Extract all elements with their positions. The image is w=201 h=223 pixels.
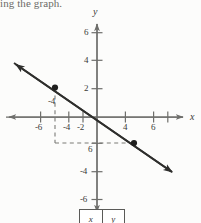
x-tick-label-4: 4: [123, 122, 127, 132]
x-tick-label-6: 6: [151, 122, 155, 132]
y-axis-label: y: [93, 6, 97, 17]
graph-svg: [0, 0, 201, 223]
x-axis: [6, 112, 183, 123]
answer-table[interactable]: x y: [79, 209, 125, 223]
plot-point-b[interactable]: [131, 140, 137, 146]
x-tick-label--4: -4: [63, 122, 70, 132]
table-header-x: x: [80, 210, 102, 223]
line-segment-up-left: [16, 65, 172, 173]
x-tick-label--6: -6: [35, 122, 42, 132]
coordinate-graph-figure: y x -6 -4 -2 4 6 6 4 2 6 -4 -6 -4: [0, 0, 201, 223]
dashed-guide-annotation: -4: [48, 96, 55, 106]
x-axis-label: x: [190, 111, 194, 122]
table-header-y: y: [102, 210, 125, 223]
y-tick-label--2: 6: [88, 144, 92, 154]
y-tick-label--4: -4: [80, 166, 87, 176]
dashed-guides: [55, 88, 134, 143]
y-tick-label-6: 6: [84, 27, 88, 37]
y-tick-label-4: 4: [84, 55, 88, 65]
plot-point-a[interactable]: [52, 84, 58, 90]
y-tick-label--6: -6: [80, 194, 87, 204]
scanned-page: ing the graph.: [0, 0, 201, 223]
x-tick-label--2: -2: [77, 122, 84, 132]
y-tick-label-2: 2: [84, 83, 88, 93]
